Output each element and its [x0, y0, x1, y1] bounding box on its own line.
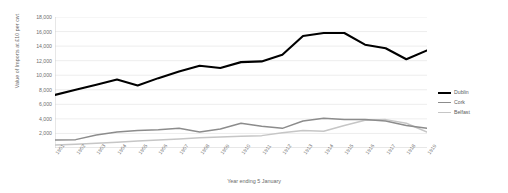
- y-axis-tick-label: 10,000: [22, 72, 52, 78]
- y-axis-tick-label: 6,000: [22, 101, 52, 107]
- y-axis-tick-label: 2,000: [22, 130, 52, 136]
- plot-area: [55, 17, 427, 148]
- y-axis-tick-label: 12,000: [22, 58, 52, 64]
- y-axis-tick-label: 4,000: [22, 116, 52, 122]
- legend-label: Cork: [454, 100, 465, 105]
- gridlines: [55, 17, 427, 133]
- series-lines: [55, 33, 427, 145]
- y-axis-title: Value of Imports at £10 per cwt: [14, 0, 20, 106]
- legend-label: Belfast: [454, 110, 470, 115]
- y-axis-tick-label: 8,000: [22, 87, 52, 93]
- legend-label: Dublin: [454, 90, 469, 95]
- legend-swatch-icon: [438, 102, 451, 103]
- x-axis-title: Year ending 5 January: [0, 178, 508, 184]
- legend-item-belfast[interactable]: Belfast: [438, 108, 506, 117]
- legend-swatch-icon: [438, 112, 451, 113]
- plot-svg: [55, 17, 427, 148]
- legend-item-cork[interactable]: Cork: [438, 98, 506, 107]
- y-axis-tick-label: 14,000: [22, 43, 52, 49]
- legend-swatch-icon: [438, 92, 451, 94]
- axis-lines: [55, 17, 427, 148]
- legend-item-dublin[interactable]: Dublin: [438, 88, 506, 97]
- x-axis-tick-label: 1919: [426, 143, 437, 156]
- x-axis-tick-labels: 1901190219031904190519061907190819091910…: [55, 148, 427, 180]
- chart-legend: DublinCorkBelfast: [438, 88, 506, 118]
- y-axis-tick-label: 16,000: [22, 29, 52, 35]
- line-chart: Value of Imports at £10 per cwt 2,0004,0…: [0, 0, 508, 193]
- y-axis-tick-label: 18,000: [22, 14, 52, 20]
- series-line-dublin: [55, 33, 427, 95]
- y-axis-tick-labels: 2,0004,0006,0008,00010,00012,00014,00016…: [22, 0, 52, 193]
